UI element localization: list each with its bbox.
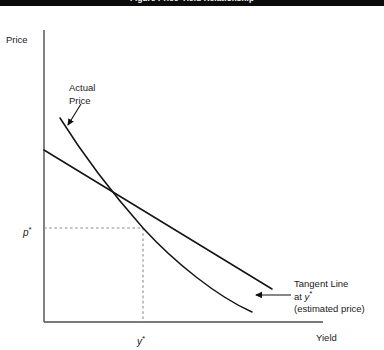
- figure-title-text: Figure Price-Yield Relationship: [0, 0, 384, 3]
- tangent-line: [44, 150, 272, 289]
- figure-price-yield-relationship: Figure Price-Yield Relationship: [0, 0, 384, 350]
- tangent-line-annotation-line2-prefix: at: [294, 291, 305, 302]
- actual-price-annotation-label: Actual Price: [69, 82, 95, 107]
- tangent-line-annotation-line3: (estimated price): [294, 303, 365, 316]
- tangent-line-annotation-label: Tangent Line at y* (estimated price): [294, 278, 365, 316]
- tangent-line-annotation-line1: Tangent Line: [294, 278, 365, 291]
- actual-price-annotation-arrow: [68, 104, 81, 125]
- p-star-asterisk: *: [29, 225, 32, 234]
- x-axis-label: Yield: [316, 332, 337, 344]
- y-star-asterisk: *: [142, 334, 145, 343]
- actual-price-curve: [60, 118, 252, 312]
- p-star-tick-label: p*: [23, 227, 32, 239]
- tangent-line-annotation-line2-asterisk: *: [309, 288, 312, 297]
- plot-area: Price Yield p* y* Actual Price Tangent L…: [0, 6, 384, 350]
- tangent-line-annotation-line2: at y*: [294, 291, 365, 304]
- y-axis-label: Price: [6, 34, 28, 46]
- y-star-tick-label: y*: [137, 336, 145, 348]
